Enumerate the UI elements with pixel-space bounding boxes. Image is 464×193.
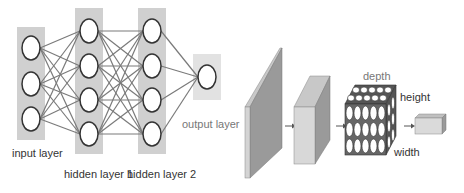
height-label: height bbox=[400, 91, 430, 103]
neuron-node bbox=[143, 19, 161, 43]
connection-edge bbox=[161, 31, 198, 77]
input-slab bbox=[245, 48, 282, 178]
cube-neuron bbox=[370, 106, 377, 120]
cube-neuron bbox=[370, 139, 377, 153]
neural-network: input layer hidden layer 1 hidden layer … bbox=[12, 8, 240, 180]
cube-neuron bbox=[364, 95, 371, 101]
cube-neuron bbox=[387, 136, 390, 148]
conv-volume bbox=[294, 76, 330, 164]
cube-neuron bbox=[372, 95, 379, 101]
cube-neuron bbox=[362, 139, 369, 153]
output-block bbox=[415, 114, 446, 134]
cube-neuron bbox=[354, 106, 361, 120]
neuron-node bbox=[80, 54, 98, 78]
cube-neuron bbox=[361, 87, 368, 93]
neuron-volume bbox=[345, 85, 396, 155]
cube-neuron bbox=[353, 87, 360, 93]
neuron-node bbox=[80, 19, 98, 43]
cube-neuron bbox=[391, 129, 394, 141]
cube-neuron bbox=[354, 139, 361, 153]
input-layer-label: input layer bbox=[12, 147, 63, 159]
width-label: width bbox=[393, 146, 420, 158]
connection-edge bbox=[161, 77, 198, 100]
connection-edge bbox=[161, 66, 198, 77]
cube-neuron bbox=[369, 87, 376, 93]
cube-neuron bbox=[362, 123, 369, 137]
neuron-node bbox=[22, 107, 40, 131]
cube-neuron bbox=[346, 123, 353, 137]
cube-neuron bbox=[370, 123, 377, 137]
cube-neuron bbox=[385, 87, 392, 93]
cube-neuron bbox=[348, 95, 355, 101]
neuron-node bbox=[80, 122, 98, 146]
cube-neuron bbox=[346, 106, 353, 120]
hidden-layer-1-label: hidden layer 1 bbox=[64, 168, 133, 180]
arrow-3 bbox=[404, 124, 415, 129]
diagram-canvas: input layer hidden layer 1 hidden layer … bbox=[0, 0, 464, 193]
output-layer-label: output layer bbox=[182, 118, 240, 130]
neuron-node bbox=[80, 88, 98, 112]
neuron-node bbox=[143, 88, 161, 112]
connections bbox=[40, 31, 198, 134]
connection-edge bbox=[40, 31, 80, 119]
cube-neuron bbox=[380, 95, 387, 101]
cnn-volumes: depth height width bbox=[245, 48, 446, 178]
neuron-node bbox=[143, 122, 161, 146]
neuron-node bbox=[198, 65, 216, 89]
neuron-node bbox=[22, 36, 40, 60]
cube-neuron bbox=[391, 97, 394, 109]
hidden-layer-2-label: hidden layer 2 bbox=[127, 168, 196, 180]
cube-neuron bbox=[387, 104, 390, 116]
cube-neuron bbox=[354, 123, 361, 137]
cube-neuron bbox=[346, 139, 353, 153]
cube-neuron bbox=[387, 120, 390, 132]
cube-neuron bbox=[362, 106, 369, 120]
cube-neuron bbox=[378, 139, 385, 153]
connection-edge bbox=[40, 100, 80, 119]
cube-neuron bbox=[356, 95, 363, 101]
cube-neuron bbox=[391, 113, 394, 125]
neuron-node bbox=[22, 72, 40, 96]
cube-neuron bbox=[377, 87, 384, 93]
cube-neuron bbox=[378, 123, 385, 137]
depth-label: depth bbox=[363, 70, 391, 82]
neuron-node bbox=[143, 54, 161, 78]
cube-neuron bbox=[378, 106, 385, 120]
